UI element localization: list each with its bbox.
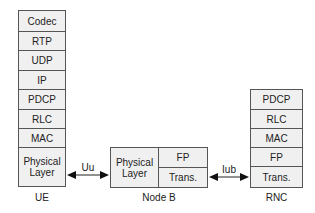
uu-interface-label: Uu bbox=[76, 162, 100, 173]
iub-interface-label: Iub bbox=[217, 164, 241, 175]
interface-arrows bbox=[0, 0, 315, 213]
